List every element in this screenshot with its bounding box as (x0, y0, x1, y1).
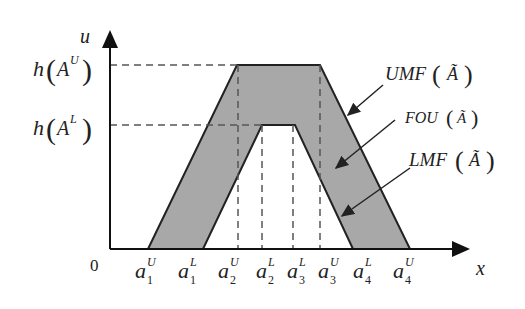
svg-text:U: U (405, 255, 415, 269)
svg-text:(: ( (46, 112, 56, 146)
svg-text:UMF: UMF (385, 63, 427, 84)
x-tick-a3L: a3L (287, 255, 306, 287)
fou-region (148, 65, 410, 249)
svg-text:h: h (33, 56, 44, 81)
svg-text:Ã: Ã (468, 150, 481, 170)
svg-text:3: 3 (299, 273, 305, 287)
svg-text:): ) (464, 60, 473, 89)
svg-text:a: a (256, 258, 267, 283)
svg-text:(: ( (46, 53, 56, 87)
x-tick-a1U: a1U (135, 255, 157, 287)
svg-text:L: L (189, 255, 197, 269)
svg-text:(: ( (455, 146, 464, 175)
x-axis-label: x (475, 257, 485, 279)
svg-text:a: a (287, 258, 298, 283)
svg-text:): ) (82, 112, 92, 146)
svg-text:Ã: Ã (456, 110, 467, 126)
svg-text:A: A (55, 58, 70, 80)
x-tick-a4L: a4L (353, 255, 372, 287)
y-tick-hU: h ( A U ) (33, 53, 92, 87)
svg-text:): ) (82, 53, 92, 87)
svg-text:(: ( (432, 60, 441, 89)
svg-text:2: 2 (268, 273, 274, 287)
origin-label: 0 (90, 256, 99, 275)
svg-text:L: L (267, 255, 275, 269)
x-tick-a2U: a2U (218, 255, 240, 287)
svg-text:a: a (178, 258, 189, 283)
svg-text:4: 4 (365, 273, 371, 287)
svg-text:a: a (135, 258, 146, 283)
x-tick-a2L: a2L (256, 255, 275, 287)
svg-text:1: 1 (190, 273, 196, 287)
svg-text:U: U (230, 255, 240, 269)
svg-text:(: ( (446, 105, 453, 130)
y-axis-label: u (80, 25, 90, 47)
svg-text:L: L (364, 255, 372, 269)
svg-text:h: h (33, 115, 44, 140)
lmf-label: LMF ( Ã ) (408, 146, 495, 175)
svg-text:A: A (55, 117, 70, 139)
svg-text:a: a (318, 258, 329, 283)
umf-label: UMF ( Ã ) (385, 60, 473, 89)
svg-text:a: a (218, 258, 229, 283)
svg-text:LMF: LMF (408, 149, 447, 170)
svg-text:a: a (353, 258, 364, 283)
svg-text:2: 2 (230, 273, 236, 287)
x-tick-a4U: a4U (393, 255, 415, 287)
y-tick-hL: h ( A L ) (33, 112, 92, 146)
x-tick-a3U: a3U (318, 255, 340, 287)
svg-text:U: U (147, 255, 157, 269)
svg-text:L: L (298, 255, 306, 269)
svg-text:L: L (69, 112, 77, 126)
svg-text:1: 1 (147, 273, 153, 287)
svg-text:3: 3 (330, 273, 336, 287)
svg-text:FOU: FOU (404, 109, 439, 126)
x-tick-labels: a1U a1L a2U a2L a3L a3U a4L a4U (135, 255, 415, 287)
fou-label: FOU ( Ã ) (404, 105, 478, 130)
umf-arrow (348, 85, 383, 115)
svg-text:): ) (471, 105, 478, 130)
svg-text:U: U (330, 255, 340, 269)
svg-text:a: a (393, 258, 404, 283)
fuzzy-set-diagram: u x 0 h ( A U ) h ( A L ) a1U a1L a2U a2… (0, 0, 525, 309)
svg-text:Ã: Ã (446, 64, 459, 84)
svg-text:U: U (70, 53, 80, 67)
x-tick-a1L: a1L (178, 255, 197, 287)
svg-text:4: 4 (405, 273, 411, 287)
svg-text:): ) (486, 146, 495, 175)
